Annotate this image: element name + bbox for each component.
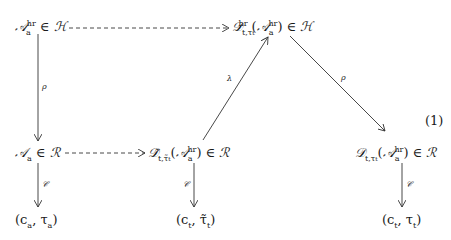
label-c-left: 𝒞 xyxy=(42,180,48,190)
label-c-right: 𝒞 xyxy=(406,180,412,190)
node-a-in-r: 𝒜a ∈ ℛ xyxy=(15,145,60,161)
node-ct-taut: (ct, τt) xyxy=(382,212,421,228)
node-ca-taua: (ca, τa) xyxy=(15,212,57,228)
node-ct-tautilde: (ct, τ̃t) xyxy=(176,212,215,228)
equation-number: (1) xyxy=(425,113,443,128)
node-d-hr-in-h: 𝒟t,τthr(𝒜ahr) ∈ ℋ xyxy=(232,19,313,35)
arrow-rho-right xyxy=(290,36,385,131)
arrow-layer xyxy=(0,0,451,240)
node-d-in-r: 𝒟t,τt(𝒜ahr) ∈ ℛ xyxy=(355,145,436,161)
node-a-hr-in-h: 𝒜ahr ∈ ℋ xyxy=(15,19,67,35)
label-lambda: λ xyxy=(227,74,232,83)
arrow-lambda xyxy=(203,37,268,140)
label-c-center: 𝒞 xyxy=(183,180,189,190)
label-rho-right: ρ xyxy=(341,73,346,82)
label-rho-left: ρ xyxy=(42,82,47,91)
node-d-tilde-in-r: 𝒟̃t,τ̃t(𝒜ahr) ∈ ℛ xyxy=(148,145,229,161)
